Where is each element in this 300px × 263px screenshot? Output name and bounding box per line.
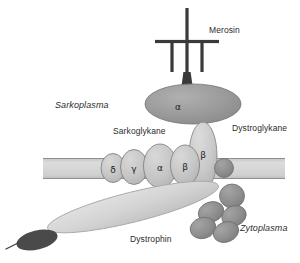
dystrophin-complex-diagram: δ γ α β α β Merosin Sarkoplasma Dystrogl… xyxy=(0,0,300,263)
beta-sarcoglycan-shape xyxy=(171,145,200,185)
sarcoglycan-complex xyxy=(101,144,200,188)
dystroglykane-label: Dystroglykane xyxy=(232,123,287,133)
merosin-icon xyxy=(155,8,219,72)
sarkoglykane-label: Sarkoglykane xyxy=(113,126,166,136)
zytoplasma-label: Zytoplasma xyxy=(240,223,288,233)
dystrophin-label: Dystrophin xyxy=(130,234,172,244)
membrane-associated-protein xyxy=(215,159,234,178)
alpha-dystroglycan-shape xyxy=(145,84,241,124)
merosin-label: Merosin xyxy=(209,25,240,35)
sarkoplasma-label: Sarkoplasma xyxy=(55,100,109,110)
dystrophin-shape xyxy=(6,171,222,254)
cytoplasmic-protein xyxy=(220,184,245,208)
